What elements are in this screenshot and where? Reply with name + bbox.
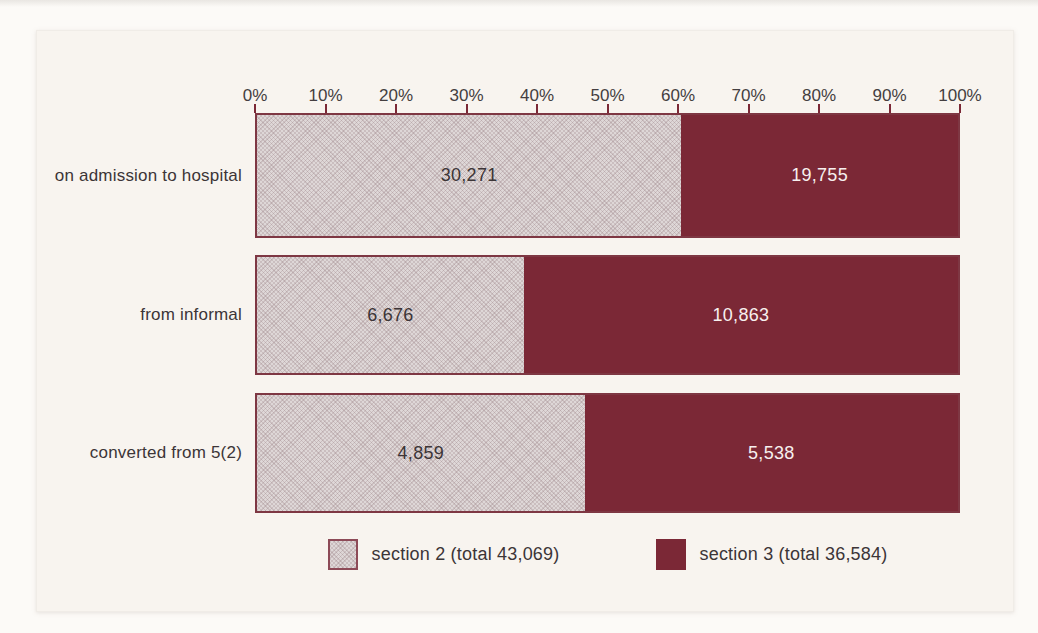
- bar-segment-section-2: 30,271: [257, 115, 681, 236]
- axis-tick-label: 30%: [449, 86, 483, 106]
- axis-label-spacer: [0, 86, 255, 104]
- axis-tick: [677, 104, 679, 113]
- bar-segment-section-3: 5,538: [585, 395, 958, 511]
- legend-spacer: [0, 539, 255, 570]
- axis-tick: [607, 104, 609, 113]
- x-axis-ticks: [0, 104, 1038, 113]
- legend-entry-section3: section 3 (total 36,584): [656, 539, 888, 570]
- bar-value-label: 6,676: [367, 305, 414, 326]
- axis-tick: [889, 104, 891, 113]
- bar-value-label: 19,755: [791, 165, 848, 186]
- x-axis: 0%10%20%30%40%50%60%70%80%90%100%: [0, 86, 1038, 104]
- legend-label-section3: section 3 (total 36,584): [700, 544, 888, 565]
- bar-row: on admission to hospital30,27119,755: [0, 113, 1038, 238]
- legend-row: section 2 (total 43,069) section 3 (tota…: [0, 539, 1038, 570]
- bar-segment-section-3: 10,863: [524, 257, 958, 373]
- legend-swatch-section2: [328, 539, 358, 570]
- axis-tick-label: 70%: [731, 86, 765, 106]
- axis-tick: [818, 104, 820, 113]
- figure: 0%10%20%30%40%50%60%70%80%90%100% on adm…: [0, 0, 1038, 633]
- axis-tick-label: 0%: [243, 86, 268, 106]
- axis-tick-label: 60%: [661, 86, 695, 106]
- bar-row: converted from 5(2)4,8595,538: [0, 393, 1038, 513]
- bar-value-label: 10,863: [712, 305, 769, 326]
- bar-rows: on admission to hospital30,27119,755from…: [0, 113, 1038, 513]
- bar-segment-section-2: 4,859: [257, 395, 585, 511]
- category-label: converted from 5(2): [0, 393, 255, 513]
- axis-tick-labels: 0%10%20%30%40%50%60%70%80%90%100%: [255, 86, 960, 104]
- bar-segment-section-3: 19,755: [681, 115, 958, 236]
- legend: section 2 (total 43,069) section 3 (tota…: [255, 539, 960, 570]
- bar-value-label: 30,271: [441, 165, 498, 186]
- axis-tick: [959, 104, 961, 113]
- axis-tick-label: 80%: [802, 86, 836, 106]
- axis-tick-label: 10%: [308, 86, 342, 106]
- axis-tick-label: 100%: [938, 86, 981, 106]
- axis-tick: [466, 104, 468, 113]
- axis-tick: [536, 104, 538, 113]
- bar-value-label: 5,538: [748, 443, 795, 464]
- legend-entry-section2: section 2 (total 43,069): [328, 539, 560, 570]
- legend-label-section2: section 2 (total 43,069): [372, 544, 560, 565]
- axis-tick-label: 50%: [590, 86, 624, 106]
- category-label: on admission to hospital: [0, 113, 255, 238]
- legend-swatch-section3: [656, 539, 686, 570]
- axis-tick-label: 40%: [520, 86, 554, 106]
- axis-tick-label: 90%: [872, 86, 906, 106]
- axis-tick: [325, 104, 327, 113]
- bar-row: from informal6,67610,863: [0, 255, 1038, 375]
- stacked-bar: 30,27119,755: [255, 113, 960, 238]
- stacked-bar: 6,67610,863: [255, 255, 960, 375]
- axis-tick-label: 20%: [379, 86, 413, 106]
- axis-tick: [254, 104, 256, 113]
- stacked-bar-chart: 0%10%20%30%40%50%60%70%80%90%100% on adm…: [0, 86, 1038, 570]
- axis-tick-marks: [255, 104, 960, 113]
- stacked-bar: 4,8595,538: [255, 393, 960, 513]
- category-label: from informal: [0, 255, 255, 375]
- bar-value-label: 4,859: [398, 443, 445, 464]
- tick-spacer: [0, 104, 255, 113]
- axis-tick: [748, 104, 750, 113]
- axis-tick: [395, 104, 397, 113]
- bar-segment-section-2: 6,676: [257, 257, 524, 373]
